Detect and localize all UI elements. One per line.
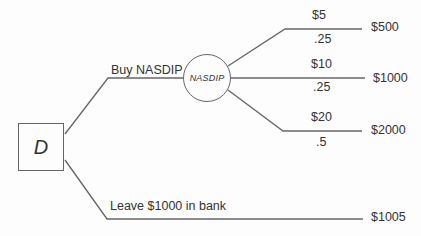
outcome-20-line	[228, 90, 362, 131]
outcome-probability-label: .25	[314, 33, 331, 47]
outcome-5-line	[228, 29, 362, 66]
chance-node: NASDIP	[183, 54, 231, 102]
decision-node: D	[18, 123, 64, 171]
chance-node-label: NASDIP	[190, 73, 225, 83]
outcome-payoff-label: $1000	[373, 72, 408, 86]
decision-tree-diagram: D NASDIP Buy NASDIP Leave $1000 in bank …	[0, 0, 421, 236]
outcome-price-label: $5	[312, 9, 326, 23]
branch-buy-line	[65, 78, 185, 134]
branch-bank-payoff-label: $1005	[371, 211, 406, 225]
outcome-probability-label: .5	[316, 136, 326, 150]
outcome-price-label: $10	[311, 58, 332, 72]
branch-buy-label: Buy NASDIP	[111, 64, 183, 78]
outcome-probability-label: .25	[313, 81, 330, 95]
branch-bank-label: Leave $1000 in bank	[110, 200, 226, 214]
outcome-payoff-label: $500	[371, 21, 399, 35]
outcome-price-label: $20	[311, 111, 332, 125]
decision-node-label: D	[34, 136, 48, 159]
outcome-payoff-label: $2000	[371, 124, 406, 138]
